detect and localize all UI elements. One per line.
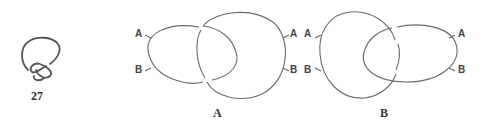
diagram-b-right-top-label: A	[458, 29, 465, 39]
knot-icon	[22, 38, 60, 80]
diagram-b-left-bottom-label: B	[304, 65, 311, 75]
diagram-b-caption: B	[380, 107, 388, 119]
diagram-b-drawing	[315, 12, 457, 98]
diagram-a-drawing	[145, 12, 289, 98]
figure: 27 A B A B A A B A B B	[0, 0, 485, 127]
diagram-a-left-bottom-label: B	[135, 65, 142, 75]
diagram-a-caption: A	[213, 107, 222, 119]
diagram-a-right-bottom-label: B	[290, 65, 297, 75]
diagram-a-left-top-label: A	[135, 29, 142, 39]
diagram-b-left-top-label: A	[304, 29, 311, 39]
diagram-a-right-top-label: A	[290, 29, 297, 39]
diagram-b-right-bottom-label: B	[458, 65, 465, 75]
knot-number: 27	[31, 90, 43, 102]
figure-drawing	[0, 0, 485, 127]
